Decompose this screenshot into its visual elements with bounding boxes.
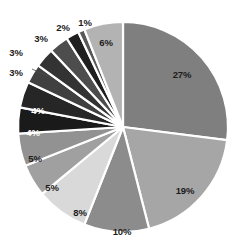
- slice-label-inside: 6%: [99, 37, 113, 48]
- pie-slices-group: [18, 22, 228, 232]
- pie-chart-figure: 27%19%10%8%5%5%4%4%3%3%3%2%1%6%: [0, 0, 239, 251]
- pie-chart-svg: 27%19%10%8%5%5%4%4%3%3%3%2%1%6%: [0, 0, 239, 251]
- slice-label-outside: 3%: [9, 67, 23, 78]
- slice-label-inside: 4%: [31, 105, 45, 116]
- slice-label-inside: 4%: [26, 127, 40, 138]
- pie-slice[interactable]: [123, 22, 228, 140]
- slice-label-outside: 2%: [56, 22, 70, 33]
- slice-label-outside: 3%: [34, 33, 48, 44]
- slice-label-inside: 8%: [73, 207, 87, 218]
- slice-label-outside: 1%: [78, 17, 92, 28]
- slice-label-outside: 3%: [9, 47, 23, 58]
- slice-label-inside: 5%: [45, 182, 59, 193]
- slice-label-inside: 5%: [28, 153, 42, 164]
- slice-label-inside: 10%: [113, 226, 132, 237]
- slice-label-inside: 27%: [173, 69, 192, 80]
- slice-label-inside: 19%: [176, 185, 195, 196]
